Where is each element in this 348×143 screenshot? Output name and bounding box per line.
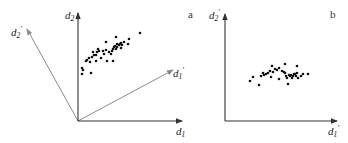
data-point — [106, 60, 109, 63]
data-point — [89, 61, 92, 64]
data-point — [270, 76, 273, 79]
data-point — [88, 57, 91, 60]
scatter-points-b — [249, 63, 310, 87]
d2-prime-rotated-axis-arrow-icon — [27, 29, 78, 121]
data-point — [296, 72, 299, 75]
data-point — [307, 73, 310, 76]
data-point — [287, 83, 290, 86]
data-point — [97, 48, 100, 51]
data-point — [267, 72, 270, 75]
data-point — [249, 80, 252, 83]
data-point — [300, 75, 303, 78]
data-point — [105, 41, 108, 44]
data-point — [269, 70, 272, 73]
data-point — [86, 59, 89, 62]
data-point — [278, 67, 281, 70]
figure-canvas: d2 d2′ d1′ d1 a d2′ d1′ b — [0, 0, 348, 143]
data-point — [102, 50, 105, 53]
data-point — [286, 77, 289, 80]
data-point — [284, 72, 287, 75]
data-point — [272, 71, 275, 74]
data-point — [92, 51, 95, 54]
panel-b: d2′ d1′ b — [209, 8, 339, 139]
d2-axis-label: d2 — [65, 9, 75, 23]
data-point — [284, 63, 287, 66]
data-point — [95, 54, 98, 57]
data-point — [258, 84, 261, 87]
panel-b-label: b — [330, 8, 336, 20]
data-point — [123, 41, 126, 44]
data-point — [278, 78, 281, 81]
data-point — [271, 65, 274, 68]
data-point — [90, 72, 93, 75]
data-point — [81, 73, 84, 76]
data-point — [115, 36, 118, 39]
data-point — [82, 69, 85, 72]
data-point — [103, 53, 106, 56]
data-point — [260, 75, 263, 78]
data-point — [112, 60, 115, 63]
data-point — [95, 60, 98, 63]
data-point — [108, 51, 111, 54]
data-point — [121, 44, 124, 47]
data-point — [105, 49, 108, 52]
data-point — [128, 38, 131, 41]
data-point — [252, 76, 255, 79]
data-point — [302, 73, 305, 76]
scatter-points-a — [81, 32, 142, 76]
panel-a: d2 d2′ d1′ d1 a — [11, 8, 193, 139]
data-point — [276, 69, 279, 72]
d1-prime-label: d1′ — [173, 66, 184, 81]
data-point — [139, 32, 142, 35]
data-point — [110, 53, 113, 56]
data-point — [297, 77, 300, 80]
data-point — [116, 46, 119, 49]
data-point — [120, 47, 123, 50]
d2-prime-label: d2′ — [11, 25, 22, 40]
data-point — [91, 56, 94, 59]
data-point — [295, 75, 298, 78]
d1-prime-rotated-axis-arrow-icon — [78, 70, 173, 121]
d2-prime-axis-label: d2′ — [209, 8, 220, 23]
data-point — [127, 43, 130, 46]
d1-axis-label: d1 — [176, 125, 185, 139]
panel-a-label: a — [188, 8, 193, 20]
d1-prime-axis-label: d1′ — [328, 124, 339, 139]
data-point — [296, 65, 299, 68]
data-point — [100, 57, 103, 60]
